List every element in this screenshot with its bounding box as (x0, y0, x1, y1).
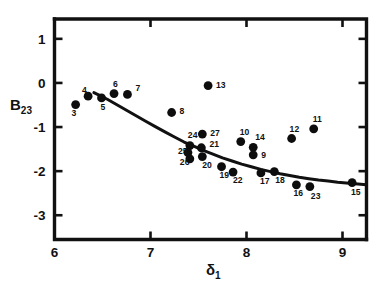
data-point-label: 8 (180, 106, 185, 116)
y-tick-label: 0 (38, 76, 46, 91)
data-point-label: 15 (351, 187, 361, 197)
y-tick-label: -1 (33, 120, 45, 135)
y-tick-label: -2 (33, 164, 45, 179)
y-tick-label: -3 (33, 208, 45, 223)
data-point (197, 143, 206, 152)
data-point (110, 89, 119, 98)
data-point-label: 5 (101, 102, 106, 112)
data-point-label: 13 (216, 80, 226, 90)
chart-figure: 6789 10-1-2-3 34567813272425212620191014… (0, 0, 390, 287)
data-point-label: 16 (293, 188, 303, 198)
x-tick-label: 6 (51, 245, 59, 260)
x-tick-label: 8 (243, 245, 251, 260)
data-point-label: 6 (113, 79, 118, 89)
x-tick-label: 7 (147, 245, 155, 260)
data-point-label: 26 (180, 157, 190, 167)
y-tick-label: 1 (38, 32, 46, 47)
data-point (236, 137, 245, 146)
data-point-label: 25 (178, 146, 188, 156)
data-point (123, 90, 132, 99)
data-point-label: 23 (311, 191, 321, 201)
data-point (204, 81, 213, 90)
data-point-label: 21 (209, 139, 219, 149)
x-tick-label: 9 (339, 245, 347, 260)
data-point-label: 19 (220, 170, 230, 180)
data-point-label: 11 (313, 114, 322, 124)
data-point-label: 10 (240, 127, 250, 137)
data-point-label: 17 (260, 176, 270, 186)
data-point (167, 108, 176, 117)
data-point-label: 22 (233, 175, 243, 185)
data-point (249, 150, 258, 159)
data-point-label: 4 (82, 85, 87, 95)
data-point-label: 12 (290, 124, 300, 134)
plot-background (0, 0, 390, 287)
data-point (249, 143, 258, 152)
scatter-plot-canvas: 6789 10-1-2-3 34567813272425212620191014… (0, 0, 390, 287)
data-point-label: 7 (135, 83, 140, 93)
data-point (198, 130, 207, 139)
data-point-label: 24 (188, 130, 198, 140)
data-point-label: 20 (202, 160, 212, 170)
data-point-label: 18 (275, 175, 285, 185)
data-point-label: 27 (210, 128, 220, 138)
data-point-label: 14 (255, 132, 265, 142)
data-point-label: 3 (72, 108, 77, 118)
data-point (287, 134, 296, 143)
data-point-label: 9 (261, 150, 266, 160)
data-point (309, 124, 318, 133)
